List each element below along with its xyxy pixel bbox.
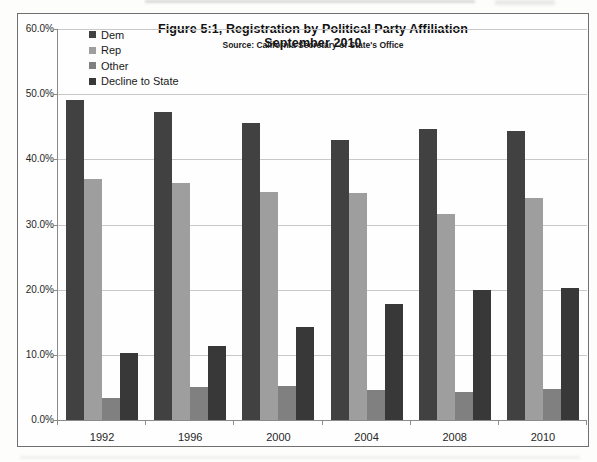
page: { "chart_data": { "type": "bar", "title"… <box>0 0 597 462</box>
bar-decline-to-state-2000 <box>296 327 314 420</box>
y-axis-label: 40.0% <box>18 153 54 164</box>
bar-other-1996 <box>190 387 208 420</box>
bar-dem-2010 <box>507 131 525 420</box>
y-axis-tick <box>53 355 57 356</box>
bar-group-2010 <box>499 29 587 420</box>
y-axis-tick <box>53 159 57 160</box>
bar-rep-2000 <box>260 192 278 420</box>
bar-dem-1996 <box>154 112 172 420</box>
bar-decline-to-state-1996 <box>208 346 226 420</box>
bar-rep-2008 <box>437 214 455 420</box>
bar-other-2000 <box>278 386 296 420</box>
x-axis-label-1996: 1996 <box>150 431 230 443</box>
bar-rep-1996 <box>172 183 190 420</box>
scan-artifact <box>20 456 580 459</box>
x-axis-tick <box>145 421 146 425</box>
plot-area <box>58 29 587 420</box>
y-axis-tick <box>53 290 57 291</box>
bar-other-1992 <box>102 398 120 420</box>
y-axis-label: 10.0% <box>18 349 54 360</box>
bar-group-2000 <box>234 29 322 420</box>
bar-decline-to-state-2008 <box>473 290 491 420</box>
x-axis-tick <box>233 421 234 425</box>
y-axis-label: 60.0% <box>18 23 54 34</box>
chart-frame: Figure 5:1, Registration by Political Pa… <box>17 13 589 447</box>
bar-group-1996 <box>146 29 234 420</box>
bar-other-2010 <box>543 389 561 420</box>
bar-decline-to-state-2004 <box>385 304 403 420</box>
y-axis-label: 0.0% <box>18 414 54 425</box>
bar-other-2008 <box>455 392 473 420</box>
x-axis-tick <box>57 421 58 425</box>
x-axis-label-2008: 2008 <box>415 431 495 443</box>
x-axis-label-2000: 2000 <box>238 431 318 443</box>
x-axis-tick <box>322 421 323 425</box>
x-axis-tick <box>586 421 587 425</box>
y-axis-label: 20.0% <box>18 284 54 295</box>
scan-artifact <box>145 0 475 3</box>
bar-dem-1992 <box>66 100 84 420</box>
bar-group-1992 <box>58 29 146 420</box>
bar-other-2004 <box>367 390 385 420</box>
y-axis-tick <box>53 94 57 95</box>
x-axis-label-2010: 2010 <box>503 431 583 443</box>
y-axis-label: 30.0% <box>18 219 54 230</box>
x-axis-tick <box>498 421 499 425</box>
scan-artifact <box>495 0 555 5</box>
bar-rep-2010 <box>525 198 543 420</box>
bar-group-2004 <box>323 29 411 420</box>
bar-rep-2004 <box>349 193 367 420</box>
x-axis-label-2004: 2004 <box>327 431 407 443</box>
y-axis-tick <box>53 225 57 226</box>
bar-groups <box>58 29 587 420</box>
bar-dem-2008 <box>419 129 437 420</box>
bar-decline-to-state-2010 <box>561 288 579 420</box>
y-axis-tick <box>53 29 57 30</box>
bar-dem-2000 <box>242 123 260 420</box>
bar-decline-to-state-1992 <box>120 353 138 420</box>
x-axis-tick <box>410 421 411 425</box>
x-axis-label-1992: 1992 <box>62 431 142 443</box>
y-axis-label: 50.0% <box>18 88 54 99</box>
bar-dem-2004 <box>331 140 349 420</box>
bar-rep-1992 <box>84 179 102 420</box>
bar-group-2008 <box>411 29 499 420</box>
